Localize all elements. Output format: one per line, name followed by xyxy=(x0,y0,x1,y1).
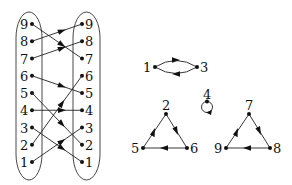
mapping-edge xyxy=(32,24,82,41)
node-label: 9 xyxy=(214,141,222,156)
arrow-head xyxy=(57,82,66,90)
left-node-dot xyxy=(30,39,34,43)
cycle-2-6-5: 2 5 6 xyxy=(131,98,198,156)
arrow-head xyxy=(57,27,66,35)
arrow-head xyxy=(57,137,67,146)
right-node-label: 9 xyxy=(85,17,93,32)
permutation-diagram: 987654321 987654321 1 3 4 2 5 6 xyxy=(0,0,292,185)
cycle-7-8-9: 7 9 8 xyxy=(214,98,281,156)
left-node-dot xyxy=(30,74,34,78)
left-node-label: 9 xyxy=(20,17,28,32)
node-label: 5 xyxy=(131,141,139,156)
left-node-label: 5 xyxy=(20,86,28,101)
right-node-label: 4 xyxy=(85,103,93,118)
left-node-label: 2 xyxy=(20,138,28,153)
node-label: 2 xyxy=(162,98,170,113)
right-node-label: 5 xyxy=(85,86,93,101)
node-label: 3 xyxy=(200,60,208,75)
left-node-label: 6 xyxy=(20,69,28,84)
left-node-label: 7 xyxy=(20,52,28,67)
right-node-label: 2 xyxy=(85,138,93,153)
mapping-edge xyxy=(32,24,82,59)
left-node-label: 4 xyxy=(20,103,28,118)
node-label: 6 xyxy=(190,141,198,156)
left-node-label: 3 xyxy=(20,121,28,136)
arrow-head xyxy=(206,110,212,115)
right-node-label: 6 xyxy=(85,69,93,84)
left-node-label: 1 xyxy=(20,155,28,170)
node-label: 4 xyxy=(203,87,211,102)
node-label: 1 xyxy=(143,60,151,75)
mapping-edge xyxy=(32,41,82,58)
arrow-head xyxy=(58,108,66,113)
left-node-dot xyxy=(30,57,34,61)
right-node-label: 7 xyxy=(85,52,93,67)
right-nodes: 987654321 xyxy=(80,17,93,170)
arrow-head xyxy=(57,99,66,109)
mapping-edge xyxy=(32,93,82,145)
arrow-head xyxy=(172,57,180,62)
right-node-label: 3 xyxy=(85,121,93,136)
arrow-head xyxy=(172,71,180,76)
node-label: 7 xyxy=(245,98,253,113)
mapping-edges xyxy=(32,24,82,162)
mapping-edge xyxy=(32,76,82,93)
right-node-label: 8 xyxy=(85,34,93,49)
left-node-label: 8 xyxy=(20,34,28,49)
cycle-4: 4 xyxy=(202,87,213,115)
arrow-head xyxy=(57,144,67,153)
node-label: 8 xyxy=(273,141,281,156)
cycle-1-3: 1 3 xyxy=(143,57,208,76)
right-node-label: 1 xyxy=(85,155,93,170)
